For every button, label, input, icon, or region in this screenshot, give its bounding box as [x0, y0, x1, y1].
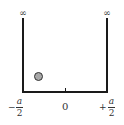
left-bound-denominator: 2	[17, 109, 23, 118]
left-infinity-label: ∞	[19, 9, 27, 18]
right-bound-sign: +	[99, 103, 107, 112]
left-bound-sign: −	[8, 103, 16, 112]
center-label: 0	[62, 102, 68, 112]
right-infinity-label: ∞	[103, 9, 111, 18]
right-bound-denominator: 2	[109, 109, 115, 118]
center-tick	[65, 88, 66, 93]
right-bound-numerator: a	[109, 97, 114, 106]
right-wall	[106, 18, 108, 93]
infinite-square-well-diagram: ∞ ∞ − a 2 0 + a 2	[0, 0, 124, 125]
left-wall	[22, 18, 24, 93]
left-bound-fraction: a 2	[16, 97, 23, 118]
left-bound-numerator: a	[17, 97, 22, 106]
right-bound-fraction: a 2	[108, 97, 115, 118]
particle	[34, 72, 43, 81]
